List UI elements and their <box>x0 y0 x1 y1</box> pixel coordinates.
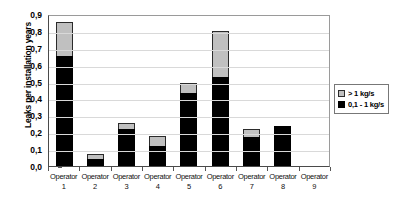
x-axis-label-number: 2 <box>79 182 110 192</box>
y-axis-tick-0,1: 0,1 <box>14 146 42 154</box>
x-axis-label-number: 3 <box>111 182 142 192</box>
gridline <box>49 50 329 51</box>
y-axis-tick-0,7: 0,7 <box>14 45 42 53</box>
gridline <box>49 67 329 68</box>
stacked-bar-chart: Leaks per installation years 0,90,80,70,… <box>0 0 408 206</box>
legend-swatch-black-icon <box>338 101 345 108</box>
bar-1[interactable] <box>56 22 73 166</box>
x-axis-label-name: Operator <box>175 172 202 181</box>
x-axis-label-name: Operator <box>301 172 328 181</box>
x-axis-label-operator-3: Operator3 <box>111 172 142 192</box>
y-axis-tick-0,3: 0,3 <box>14 112 42 120</box>
x-axis-label-name: Operator <box>238 172 265 181</box>
x-axis-label-operator-2: Operator2 <box>79 172 110 192</box>
bar-5[interactable] <box>180 83 197 166</box>
legend-label-black: 0,1 - 1 kg/s <box>348 100 384 109</box>
legend-item-black: 0,1 - 1 kg/s <box>338 99 384 110</box>
x-axis-label-operator-5: Operator5 <box>173 172 204 192</box>
x-axis-category-labels: Operator1Operator2Operator3Operator4Oper… <box>48 172 330 192</box>
x-axis-tick-mark <box>236 167 237 171</box>
bar-slot <box>173 16 204 166</box>
bar-segment-01to1 <box>56 56 73 166</box>
gridline <box>49 84 329 85</box>
bar-slot <box>49 16 80 166</box>
x-axis-label-name: Operator <box>113 172 140 181</box>
bar-slot <box>142 16 173 166</box>
x-axis-label-name: Operator <box>50 172 77 181</box>
bar-3[interactable] <box>118 123 135 166</box>
y-axis-tick-labels: 0,90,80,70,60,50,40,30,20,10,0 <box>14 15 42 167</box>
bar-segment-01to1 <box>149 146 166 166</box>
y-axis-tick-0,8: 0,8 <box>14 28 42 36</box>
bar-segment-gt1 <box>212 31 229 77</box>
x-axis-label-number: 4 <box>142 182 173 192</box>
bar-2[interactable] <box>87 154 104 166</box>
gridline <box>49 33 329 34</box>
x-axis-tick-mark <box>299 167 300 171</box>
bar-segment-01to1 <box>87 159 104 166</box>
bar-segment-gt1 <box>56 22 73 57</box>
bar-segment-01to1 <box>274 126 291 166</box>
legend-item-gray: > 1 kg/s <box>338 88 384 99</box>
y-axis-tick-0,9: 0,9 <box>14 11 42 19</box>
bar-slot <box>298 16 329 166</box>
bar-segment-01to1 <box>180 93 197 166</box>
x-axis-label-name: Operator <box>144 172 171 181</box>
x-axis-tick-mark <box>267 167 268 171</box>
bar-slot <box>205 16 236 166</box>
x-axis-tick-mark <box>330 167 331 171</box>
legend-label-gray: > 1 kg/s <box>348 89 374 98</box>
x-axis-tick-mark <box>142 167 143 171</box>
x-axis-label-number: 5 <box>173 182 204 192</box>
x-axis-tick-marks <box>48 167 330 171</box>
x-axis-label-number: 7 <box>236 182 267 192</box>
x-axis-label-operator-4: Operator4 <box>142 172 173 192</box>
bar-6[interactable] <box>212 31 229 166</box>
bar-8[interactable] <box>274 126 291 166</box>
bar-segment-gt1 <box>243 129 260 137</box>
bar-slot <box>80 16 111 166</box>
y-axis-tick-0,6: 0,6 <box>14 62 42 70</box>
x-axis-tick-mark <box>173 167 174 171</box>
bar-slot <box>267 16 298 166</box>
x-axis-label-operator-6: Operator6 <box>205 172 236 192</box>
plot-area <box>48 15 330 167</box>
x-axis-tick-mark <box>48 167 49 171</box>
x-axis-label-number: 8 <box>267 182 298 192</box>
bar-slot <box>236 16 267 166</box>
x-axis-label-operator-1: Operator1 <box>48 172 79 192</box>
x-axis-tick-mark <box>111 167 112 171</box>
gridline <box>49 117 329 118</box>
x-axis-tick-mark <box>79 167 80 171</box>
y-axis-tick-0,0: 0,0 <box>14 163 42 171</box>
bar-segment-gt1 <box>149 136 166 146</box>
x-axis-label-operator-9: Operator9 <box>299 172 330 192</box>
x-axis-label-operator-8: Operator8 <box>267 172 298 192</box>
gridline <box>49 134 329 135</box>
chart-legend: > 1 kg/s 0,1 - 1 kg/s <box>334 84 389 114</box>
legend-swatch-gray-icon <box>338 90 345 97</box>
x-axis-tick-mark <box>205 167 206 171</box>
bar-segment-01to1 <box>212 77 229 167</box>
x-axis-label-number: 6 <box>205 182 236 192</box>
y-axis-tick-0,2: 0,2 <box>14 129 42 137</box>
x-axis-label-number: 1 <box>48 182 79 192</box>
x-axis-label-name: Operator <box>269 172 296 181</box>
y-axis-tick-0,4: 0,4 <box>14 95 42 103</box>
bar-slot <box>111 16 142 166</box>
bar-segment-gt1 <box>180 83 197 93</box>
x-axis-label-operator-7: Operator7 <box>236 172 267 192</box>
y-axis-tick-0,5: 0,5 <box>14 79 42 87</box>
x-axis-label-number: 9 <box>299 182 330 192</box>
gridline <box>49 151 329 152</box>
bar-series-container <box>49 16 329 166</box>
x-axis-label-name: Operator <box>207 172 234 181</box>
x-axis-label-name: Operator <box>81 172 108 181</box>
gridline <box>49 100 329 101</box>
